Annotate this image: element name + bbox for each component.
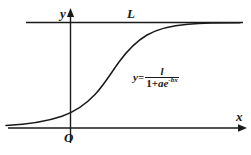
x-axis-label: x [236,110,243,123]
origin-label: O [64,131,73,144]
y-axis-arrowhead [67,8,74,17]
logistic-curve-path [6,23,240,126]
equation-denominator-exponent: -bx [168,76,177,84]
curve-equation: y = l 1+ae-bx [133,66,179,89]
figure-canvas [0,0,251,155]
equation-equals-sign: = [138,72,144,83]
asymptote-label: L [127,7,135,20]
equation-denominator-prefix: 1+ [146,77,158,89]
equation-fraction: l 1+ae-bx [145,66,179,89]
y-axis-label: y [60,7,66,20]
x-axis-arrowhead [238,124,247,132]
equation-numerator: l [157,66,166,77]
equation-denominator-coefficient: ae [158,77,168,89]
equation-denominator: 1+ae-bx [145,78,179,89]
logistic-curve-figure: y x O L y = l 1+ae-bx [0,0,251,155]
